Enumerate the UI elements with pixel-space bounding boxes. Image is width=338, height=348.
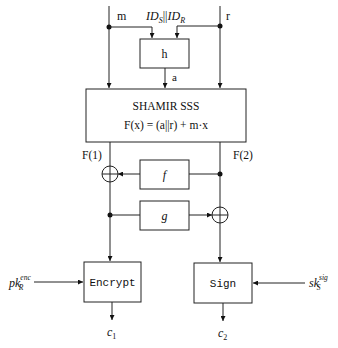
- pk-label: pkencR: [8, 273, 31, 292]
- m-label: m: [117, 9, 127, 23]
- scheme-diagram: m IDS||IDR r h a SHAMIR SSS F(x) = (a||r…: [0, 0, 338, 348]
- a-label: a: [172, 71, 177, 83]
- shamir-formula: F(x) = (a||r) + m·x: [124, 119, 208, 132]
- hash-label: h: [162, 47, 168, 61]
- encrypt-box: Encrypt: [84, 262, 141, 302]
- sign-box: Sign: [194, 263, 252, 303]
- hash-box: h: [140, 39, 189, 68]
- input-r: r: [220, 6, 230, 88]
- xor-left-icon: [102, 166, 118, 182]
- f-box: f: [140, 160, 189, 189]
- f1-label: F(1): [82, 149, 102, 162]
- sign-label: Sign: [210, 278, 236, 290]
- shamir-box: SHAMIR SSS F(x) = (a||r) + m·x: [86, 89, 246, 142]
- encrypt-label: Encrypt: [89, 277, 135, 289]
- sk-label: sksigS: [309, 273, 328, 292]
- r-label: r: [226, 9, 230, 23]
- input-ids: IDS||IDR: [145, 9, 185, 25]
- r-to-h-line: [177, 26, 220, 38]
- xor-right-icon: [212, 207, 228, 223]
- ids-label: IDS||IDR: [145, 9, 185, 25]
- c2-label: c2: [218, 326, 227, 342]
- g-label: g: [162, 209, 168, 223]
- shamir-title: SHAMIR SSS: [133, 100, 200, 112]
- g-box: g: [140, 201, 189, 230]
- m-to-h-line: [109, 27, 152, 38]
- c1-label: c1: [107, 325, 116, 341]
- input-m: m: [109, 6, 127, 88]
- f2-label: F(2): [233, 149, 253, 162]
